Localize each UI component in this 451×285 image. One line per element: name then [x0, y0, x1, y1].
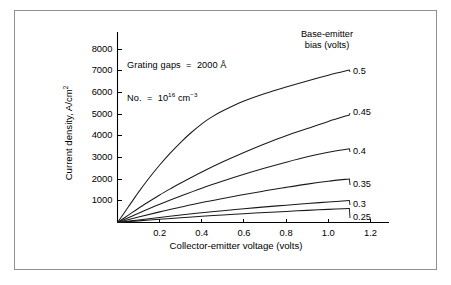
- curve-0-4: [118, 149, 350, 223]
- curve-label-0-25: 0.25: [353, 212, 371, 223]
- x-tick-label: 1.0: [322, 227, 335, 238]
- x-tick-label: 1.2: [364, 227, 377, 238]
- leader-line-0-35: [349, 179, 350, 185]
- y-tick-label: 8000: [78, 43, 113, 54]
- chart-annotations: Grating gaps = 2000 Å No. = 1016 cm−3: [127, 38, 227, 127]
- y-tick-label: 1000: [78, 194, 113, 205]
- curve-0-3: [118, 201, 350, 223]
- y-tick-label: 2000: [78, 173, 113, 184]
- y-tick-label: 6000: [78, 86, 113, 97]
- figure-container: Grating gaps = 2000 Å No. = 1016 cm−3 Ba…: [0, 0, 451, 285]
- y-axis-label: Current density, A/cm2: [63, 86, 74, 181]
- y-tick-label: 7000: [78, 64, 113, 75]
- x-tick-label: 0.6: [237, 227, 250, 238]
- curve-label-0-5: 0.5: [353, 66, 366, 77]
- curve-0-45: [118, 115, 350, 223]
- curve-0-35: [118, 179, 350, 223]
- x-tick-label: 0.4: [195, 227, 208, 238]
- x-tick-label: 0.8: [280, 227, 293, 238]
- annotation-doping: No. = 1016 cm−3: [127, 93, 227, 104]
- label-leader-lines: [349, 70, 350, 218]
- leader-line-0-25: [349, 208, 350, 218]
- leader-line-0-3: [349, 201, 350, 205]
- x-axis-label: Collector-emitter voltage (volts): [170, 240, 303, 251]
- y-tick-label: 3000: [78, 151, 113, 162]
- leader-line-0-5: [349, 70, 350, 72]
- annotation-grating-gaps: Grating gaps = 2000 Å: [127, 60, 227, 71]
- y-tick-label: 4000: [78, 129, 113, 140]
- x-tick-label: 0.2: [153, 227, 166, 238]
- curve-0-25: [118, 208, 350, 222]
- curve-label-0-4: 0.4: [353, 146, 366, 157]
- legend-title: Base-emitterbias (volts): [301, 29, 353, 51]
- curve-label-0-35: 0.35: [353, 179, 371, 190]
- leader-line-0-4: [349, 149, 350, 152]
- curve-label-0-45: 0.45: [353, 107, 371, 118]
- curve-label-0-3: 0.3: [353, 199, 366, 210]
- leader-line-0-45: [349, 113, 350, 115]
- y-tick-label: 5000: [78, 108, 113, 119]
